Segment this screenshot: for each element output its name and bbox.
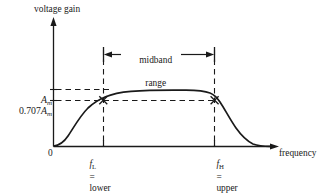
- midband-range-line-2: range: [145, 78, 166, 88]
- y-tick-label-am-0707-prefix: 0.707: [19, 105, 41, 116]
- x-tick-label-f-upper: fH = upper cutoff frequency: [207, 148, 263, 193]
- midband-range-annotation: midband range: [123, 44, 179, 100]
- midband-range-line-1: midband: [139, 55, 172, 65]
- midband-arrowhead-left: [104, 52, 112, 58]
- x-tick-label-f-upper-def-1: upper: [216, 183, 237, 193]
- x-tick-label-f-lower: fL = lower cutoff frequency: [80, 148, 136, 193]
- x-tick-label-f-lower-equals: =: [89, 172, 94, 182]
- x-tick-label-f-upper-equals: =: [216, 172, 221, 182]
- origin-label: 0: [48, 148, 53, 159]
- y-tick-label-am-0707: 0.707Am: [4, 94, 52, 130]
- figure-canvas: voltage gain frequency 0 Am 0.707Am midb…: [0, 0, 332, 193]
- x-tick-label-f-upper-subscript: H: [219, 163, 224, 170]
- y-axis-arrowhead: [50, 17, 56, 26]
- y-tick-label-am-0707-subscript: m: [47, 110, 52, 118]
- x-axis-label: frequency: [279, 148, 316, 159]
- x-tick-label-f-lower-subscript: L: [92, 163, 96, 170]
- y-axis-label: voltage gain: [34, 4, 80, 15]
- midband-arrowhead-right: [206, 52, 214, 58]
- x-tick-label-f-lower-def-1: lower: [89, 183, 110, 193]
